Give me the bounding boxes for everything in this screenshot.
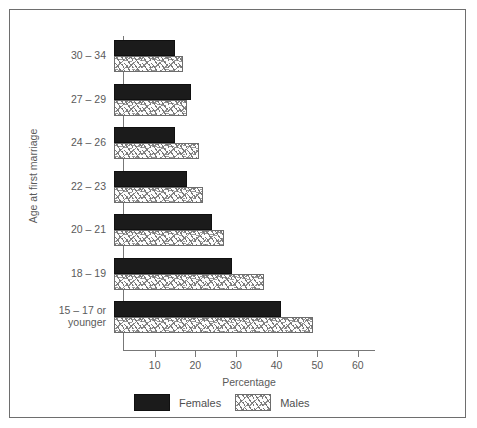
bar-females	[114, 301, 281, 317]
bar-males	[114, 274, 264, 290]
bar-males	[114, 230, 224, 246]
x-tick	[277, 351, 278, 357]
y-category-label: 24 – 26	[0, 136, 106, 148]
x-tick-label: 50	[311, 359, 323, 371]
y-category-label-line: 27 – 29	[0, 93, 106, 105]
y-category-label: 18 – 19	[0, 267, 106, 279]
top-caption	[0, 0, 477, 5]
figure-container: 102030405060 Percentage Age at first mar…	[0, 0, 477, 428]
x-tick	[155, 351, 156, 357]
bar-females	[114, 258, 232, 274]
x-tick	[358, 351, 359, 357]
bar-males	[114, 187, 203, 203]
bar-males	[114, 56, 183, 72]
legend-swatch-males-icon	[235, 394, 271, 411]
bar-females	[114, 127, 175, 143]
y-category-label-line: younger	[0, 316, 106, 328]
legend: Females Males	[134, 394, 310, 411]
y-category-label: 27 – 29	[0, 93, 106, 105]
y-category-label: 22 – 23	[0, 180, 106, 192]
y-category-label-line: 22 – 23	[0, 180, 106, 192]
figure-frame: 102030405060 Percentage Age at first mar…	[9, 9, 466, 418]
bar-males	[114, 317, 313, 333]
bar-females	[114, 171, 187, 187]
x-tick-label: 60	[352, 359, 364, 371]
y-category-label: 15 – 17 oryounger	[0, 304, 106, 328]
y-category-label: 20 – 21	[0, 223, 106, 235]
bar-females	[114, 214, 212, 230]
bar-females	[114, 84, 191, 100]
y-axis-title: Age at first marriage	[27, 91, 39, 261]
x-axis-title: Percentage	[123, 376, 375, 388]
x-tick-label: 40	[271, 359, 283, 371]
y-category-label: 30 – 34	[0, 49, 106, 61]
x-axis-line	[123, 350, 375, 351]
bar-males	[114, 100, 187, 116]
x-tick-label: 30	[230, 359, 242, 371]
x-tick	[195, 351, 196, 357]
x-tick	[317, 351, 318, 357]
bar-males	[114, 143, 199, 159]
y-category-label-line: 24 – 26	[0, 136, 106, 148]
legend-label-males: Males	[280, 397, 309, 409]
x-tick	[236, 351, 237, 357]
bar-females	[114, 40, 175, 56]
legend-swatch-females-icon	[134, 394, 170, 411]
legend-label-females: Females	[179, 397, 221, 409]
x-tick-label: 10	[149, 359, 161, 371]
y-category-label-line: 20 – 21	[0, 223, 106, 235]
legend-item-males: Males	[235, 394, 309, 411]
y-category-label-line: 15 – 17 or	[0, 304, 106, 316]
legend-item-females: Females	[134, 394, 221, 411]
y-category-label-line: 18 – 19	[0, 267, 106, 279]
x-tick-label: 20	[189, 359, 201, 371]
y-category-label-line: 30 – 34	[0, 49, 106, 61]
